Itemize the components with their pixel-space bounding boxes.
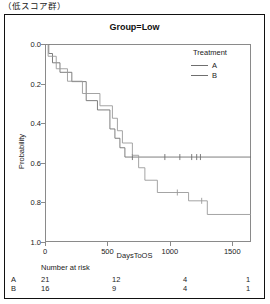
y-tick-label-5: 0.0 <box>21 40 41 49</box>
survival-curve-B <box>45 44 251 214</box>
number-at-risk-table: Number at risk A 21 12 4 1 B 16 9 4 1 <box>11 263 261 297</box>
survival-curve-A <box>45 44 251 157</box>
risk-row-label-a: A <box>11 275 16 284</box>
chart-title: Group=Low <box>5 22 264 32</box>
y-tick-label-3: 0.4 <box>21 119 41 128</box>
x-axis-title: DaysToOS <box>5 251 264 260</box>
risk-cell-b-0: 16 <box>41 284 65 293</box>
risk-cell-a-1: 12 <box>112 275 136 284</box>
x-tick-mark-0 <box>45 242 46 246</box>
risk-cell-b-3: 1 <box>246 284 270 293</box>
y-tick-label-0: 1.0 <box>21 238 41 247</box>
risk-cell-a-0: 21 <box>41 275 65 284</box>
risk-cell-b-2: 4 <box>183 284 207 293</box>
risk-cell-b-1: 9 <box>112 284 136 293</box>
figure-caption-japanese: （低スコア群） <box>3 0 66 13</box>
figure-frame: Group=Low Treatment A B 1.00.80.60.40.20… <box>4 14 265 299</box>
x-tick-mark-1 <box>107 242 108 246</box>
risk-row-label-b: B <box>11 284 16 293</box>
risk-table-title: Number at risk <box>41 263 90 272</box>
x-tick-mark-3 <box>232 242 233 246</box>
x-tick-mark-2 <box>170 242 171 246</box>
y-tick-label-1: 0.8 <box>21 198 41 207</box>
survival-plot-figure: （低スコア群） Group=Low Treatment A B 1.00.80.… <box>0 0 270 304</box>
table-row: B 16 9 4 1 <box>11 284 261 294</box>
survival-curves <box>45 44 251 242</box>
risk-cell-a-3: 1 <box>246 275 270 284</box>
y-tick-label-4: 0.2 <box>21 79 41 88</box>
plot-area <box>45 44 251 242</box>
risk-cell-a-2: 4 <box>183 275 207 284</box>
y-axis-title: Probability <box>17 134 26 169</box>
